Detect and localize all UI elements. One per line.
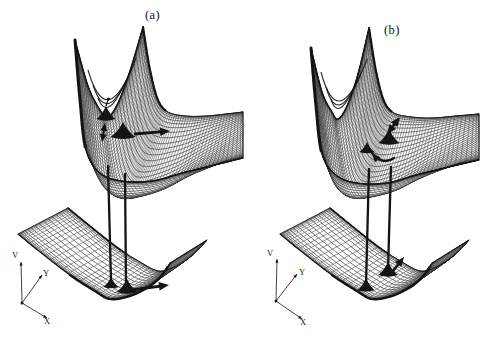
- axis-x-label-b: X: [300, 317, 306, 327]
- axis-v-label-a: V: [12, 250, 18, 260]
- upper-surface-a: [75, 27, 243, 199]
- panel-a-label: (a): [145, 8, 160, 23]
- axis-x-label-a: X: [44, 316, 50, 326]
- axis-y-label-b: Y: [299, 267, 305, 277]
- surface-plot-canvas: [0, 0, 488, 343]
- axis-y-label-a: Y: [43, 268, 49, 278]
- lower-surface-b: [280, 208, 469, 299]
- figure: (a) (b) V Y X V Y X: [0, 0, 488, 343]
- axes-triad-b: [275, 259, 303, 319]
- panel-b-plot: [275, 28, 480, 319]
- axis-v-label-b: V: [267, 248, 273, 258]
- panel-a-plot: [18, 27, 243, 318]
- upper-surface-b: [311, 28, 479, 199]
- panel-b-label: (b): [384, 23, 400, 38]
